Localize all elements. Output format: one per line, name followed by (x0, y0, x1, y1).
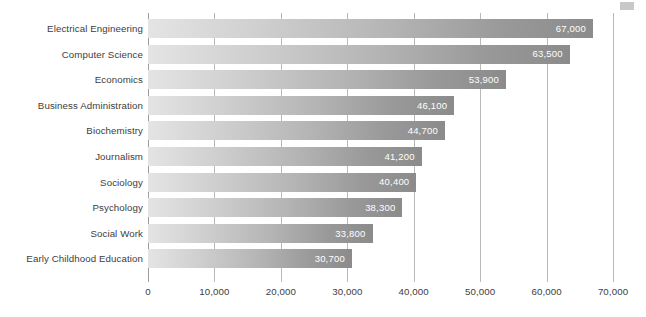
bar: 40,400 (148, 173, 416, 192)
bar-row: 33,800 (148, 224, 613, 243)
bar-value-label: 53,900 (469, 75, 499, 85)
bar-value-label: 41,200 (384, 152, 414, 162)
bar-row: 38,300 (148, 198, 613, 217)
bar-row: 53,900 (148, 70, 613, 89)
category-label: Computer Science (0, 45, 143, 64)
bar-value-label: 38,300 (365, 203, 395, 213)
bar-value-label: 33,800 (335, 229, 365, 239)
category-label: Biochemistry (0, 121, 143, 140)
x-tick-label: 70,000 (598, 286, 628, 297)
bar: 33,800 (148, 224, 373, 243)
bar-row: 30,700 (148, 249, 613, 268)
category-label: Electrical Engineering (0, 19, 143, 38)
bar-value-label: 44,700 (408, 126, 438, 136)
bar-row: 40,400 (148, 173, 613, 192)
category-label: Business Administration (0, 96, 143, 115)
bar: 67,000 (148, 19, 593, 38)
bar-value-label: 40,400 (379, 177, 409, 187)
bar: 63,500 (148, 45, 570, 64)
x-tick-label: 60,000 (531, 286, 561, 297)
bar-row: 67,000 (148, 19, 613, 38)
category-label: Social Work (0, 224, 143, 243)
bar-row: 44,700 (148, 121, 613, 140)
bar-chart: Electrical EngineeringComputer ScienceEc… (0, 0, 646, 317)
category-label: Early Childhood Education (0, 249, 143, 268)
bar: 46,100 (148, 96, 454, 115)
bar: 53,900 (148, 70, 506, 89)
bar-value-label: 63,500 (533, 49, 563, 59)
bar-row: 41,200 (148, 147, 613, 166)
x-tick-label: 50,000 (465, 286, 495, 297)
category-label: Psychology (0, 198, 143, 217)
x-tick-label: 30,000 (332, 286, 362, 297)
x-tick-label: 10,000 (199, 286, 229, 297)
x-axis-tick-labels: 010,00020,00030,00040,00050,00060,00070,… (148, 286, 613, 306)
category-label: Economics (0, 70, 143, 89)
bar: 44,700 (148, 121, 445, 140)
bar-value-label: 30,700 (315, 254, 345, 264)
gridline (613, 13, 614, 282)
category-label: Sociology (0, 173, 143, 192)
bar-value-label: 67,000 (556, 24, 586, 34)
corner-artifact (620, 2, 634, 10)
x-tick-label: 40,000 (399, 286, 429, 297)
x-tick-label: 0 (145, 286, 151, 297)
bar: 30,700 (148, 249, 352, 268)
category-axis-labels: Electrical EngineeringComputer ScienceEc… (0, 19, 143, 275)
bar: 38,300 (148, 198, 402, 217)
bar-row: 46,100 (148, 96, 613, 115)
category-label: Journalism (0, 147, 143, 166)
x-tick-label: 20,000 (266, 286, 296, 297)
bar-series: 67,00063,50053,90046,10044,70041,20040,4… (148, 19, 613, 275)
bar: 41,200 (148, 147, 422, 166)
bar-value-label: 46,100 (417, 101, 447, 111)
bar-row: 63,500 (148, 45, 613, 64)
